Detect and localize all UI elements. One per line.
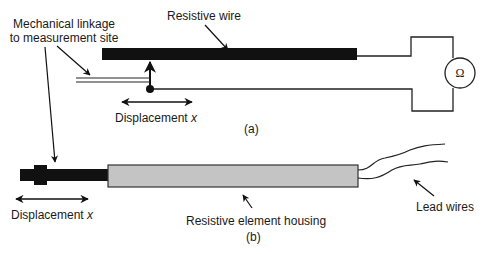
housing-label: Resistive element housing: [186, 214, 326, 228]
displacement-label-b: Displacement x: [11, 208, 93, 222]
displacement-text-a: Displacement: [115, 111, 188, 125]
displacement-var-b: x: [87, 208, 93, 222]
displacement-label-a: Displacement x: [115, 111, 197, 125]
caption-a: (a): [244, 122, 259, 136]
displacement-text-b: Displacement: [11, 208, 84, 222]
lead-wire-bottom: [358, 161, 448, 179]
lead-wires-label: Lead wires: [416, 200, 474, 214]
linkage-label-line1: Mechanical linkage: [8, 17, 120, 31]
potentiometer-diagram: Ω Resistive wire Mechanical linkage to m…: [0, 0, 488, 254]
ohm-symbol: Ω: [452, 66, 468, 80]
caption-b: (b): [246, 230, 261, 244]
shaft: [20, 169, 110, 181]
resistive-wire: [102, 48, 357, 60]
linkage-label-line2: to measurement site: [8, 31, 120, 45]
housing-leader: [243, 195, 252, 208]
resistive-wire-label: Resistive wire: [167, 9, 241, 23]
linkage-leader: [57, 46, 90, 75]
displacement-var-a: x: [191, 111, 197, 125]
slider-block: [34, 165, 47, 185]
circuit-top-lead: [357, 37, 453, 58]
circuit-bottom-lead: [150, 88, 453, 111]
linkage-leader-to-b: [45, 47, 55, 162]
resistive-wire-leader: [205, 25, 228, 50]
panel-b: [16, 144, 448, 208]
resistive-element-housing: [108, 165, 358, 187]
lead-wires-leader: [414, 180, 434, 196]
